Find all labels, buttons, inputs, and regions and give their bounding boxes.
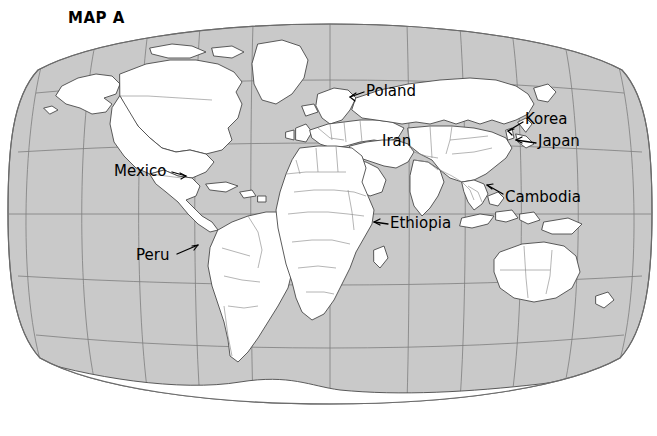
country-label-peru: Peru [136,248,169,263]
land-puerto-rico [258,196,266,202]
country-label-cambodia: Cambodia [505,190,581,205]
country-label-japan: Japan [538,134,580,149]
country-label-mexico: Mexico [114,164,166,179]
map-figure: MAP A [0,0,657,436]
country-label-ethiopia: Ethiopia [390,216,451,231]
country-label-poland: Poland [366,84,416,99]
country-label-iran: Iran [382,134,411,149]
page-title: MAP A [68,9,125,27]
world-map-graphic [0,0,657,436]
land-ireland [286,130,294,140]
country-label-korea: Korea [525,112,568,127]
